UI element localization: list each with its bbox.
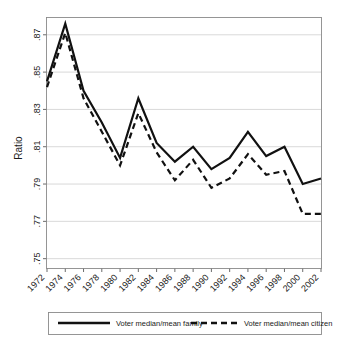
x-tick-label: 1992: [208, 272, 229, 293]
y-tick-label: .85: [32, 66, 42, 79]
x-tick-label: 2002: [299, 272, 320, 293]
y-tick-label: .77: [32, 215, 42, 228]
x-tick-label: 1980: [98, 272, 119, 293]
chart-legend[interactable]: Voter median/mean familyVoter median/mea…: [49, 313, 333, 335]
x-tick-label: 1996: [244, 272, 265, 293]
x-tick-label: 1984: [135, 272, 156, 293]
x-tick-label: 2000: [281, 272, 302, 293]
legend-label-1: Voter median/mean family: [116, 319, 203, 328]
x-tick-label: 1972: [25, 272, 46, 293]
y-axis-title: Ratio: [13, 136, 24, 160]
y-tick-label: .81: [32, 140, 42, 153]
chart-figure: .87.85.83.81.79.77.75 197219741976197819…: [0, 0, 346, 350]
x-tick-label: 1986: [153, 272, 174, 293]
x-tick-label: 1982: [117, 272, 138, 293]
x-tick-label: 1994: [226, 272, 247, 293]
y-tick-label: .79: [32, 178, 42, 191]
x-tick-label: 1976: [62, 272, 83, 293]
ratio-line-chart: .87.85.83.81.79.77.75 197219741976197819…: [0, 0, 346, 350]
series-line-2: [47, 33, 321, 214]
x-tick-label: 1978: [80, 272, 101, 293]
y-axis-tick-labels: .87.85.83.81.79.77.75: [32, 29, 42, 265]
y-tick-label: .83: [32, 103, 42, 116]
series-line-1: [47, 24, 321, 184]
x-axis-tick-labels: 1972197419761978198019821984198619881990…: [25, 272, 320, 293]
x-tick-label: 1974: [43, 272, 64, 293]
plot-frame: [47, 18, 322, 269]
y-tick-label: .87: [32, 29, 42, 42]
data-series-layer: [47, 24, 321, 214]
gridlines: [47, 35, 321, 259]
x-tick-label: 1990: [190, 272, 211, 293]
y-tick-label: .75: [32, 252, 42, 265]
x-tick-label: 1998: [263, 272, 284, 293]
x-tick-label: 1988: [171, 272, 192, 293]
legend-label-2: Voter median/mean citizen: [244, 319, 332, 328]
